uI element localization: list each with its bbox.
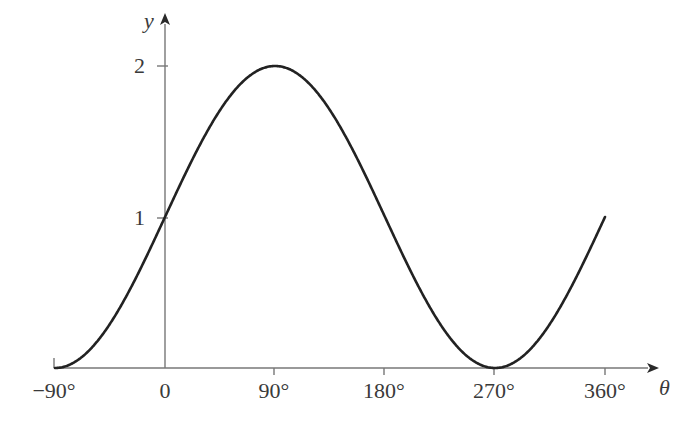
y-tick-label-2: 2 [134, 55, 145, 77]
x-tick-label-180: 180° [363, 380, 405, 402]
x-tick-label-360: 360° [584, 380, 626, 402]
chart-canvas [0, 0, 689, 425]
x-tick-label-0: 0 [160, 380, 171, 402]
x-tick-label-270: 270° [473, 380, 515, 402]
y-tick-label-1: 1 [134, 207, 145, 229]
y-axis-label: y [144, 10, 154, 32]
x-axis-label: θ [659, 377, 670, 399]
x-tick-label-90: 90° [259, 380, 290, 402]
x-tick-label-minus90: −90° [32, 380, 75, 402]
sine-curve-figure: −90° 0 90° 180° 270° 360° 1 2 y θ [0, 0, 689, 425]
